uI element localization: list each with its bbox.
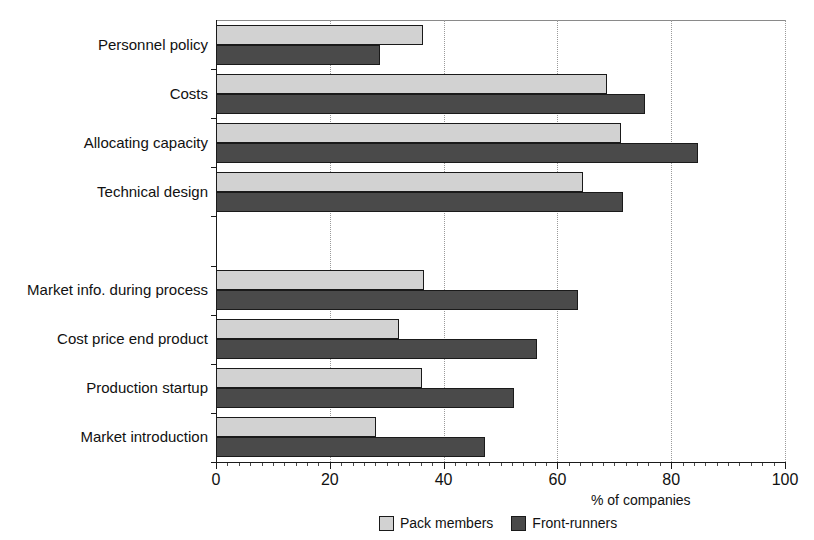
x-tick-label: 100	[772, 470, 799, 490]
bar-group	[216, 413, 785, 462]
x-minor-tick	[728, 463, 729, 466]
category-label: Cost price end product	[57, 329, 208, 349]
legend-item: Pack members	[379, 515, 493, 532]
x-minor-tick	[466, 463, 467, 466]
category-tick	[211, 462, 216, 463]
bar-group	[216, 118, 785, 167]
x-minor-tick	[375, 463, 376, 466]
category-tick	[211, 413, 216, 414]
bar-front-runners	[216, 192, 623, 212]
x-minor-tick	[717, 463, 718, 466]
x-minor-tick	[341, 463, 342, 466]
x-minor-tick	[603, 463, 604, 466]
x-major-tick	[216, 463, 217, 469]
category-tick	[211, 167, 216, 168]
bar-front-runners-track	[216, 437, 785, 457]
x-minor-tick	[318, 463, 319, 466]
x-minor-tick	[239, 463, 240, 466]
category-label: Technical design	[97, 182, 208, 202]
x-minor-tick	[489, 463, 490, 466]
x-minor-tick	[694, 463, 695, 466]
x-minor-tick	[432, 463, 433, 466]
legend-label: Front-runners	[532, 515, 617, 532]
x-tick-label: 80	[662, 470, 680, 490]
bar-front-runners	[216, 94, 645, 114]
category-tick	[211, 266, 216, 267]
category-label: Market info. during process	[27, 280, 208, 300]
bar-front-runners	[216, 143, 698, 163]
x-minor-tick	[227, 463, 228, 466]
caption-remnant	[8, 534, 428, 540]
bar-front-runners-track	[216, 192, 785, 212]
x-tick-label: 20	[321, 470, 339, 490]
x-major-tick	[671, 463, 672, 469]
bar-pack-members	[216, 368, 422, 388]
x-minor-tick	[250, 463, 251, 466]
x-minor-tick	[626, 463, 627, 466]
bar-pack-members	[216, 417, 376, 437]
category-tick	[211, 216, 216, 217]
category-label: Personnel policy	[98, 35, 208, 55]
bar-group	[216, 266, 785, 315]
x-minor-tick	[705, 463, 706, 466]
x-minor-tick	[455, 463, 456, 466]
x-minor-tick	[648, 463, 649, 466]
category-tick	[211, 364, 216, 365]
bar-front-runners-track	[216, 94, 785, 114]
bar-pack-members-track	[216, 417, 785, 437]
x-minor-tick	[569, 463, 570, 466]
bar-pack-members	[216, 25, 423, 45]
bar-front-runners-track	[216, 45, 785, 65]
x-minor-tick	[580, 463, 581, 466]
x-minor-tick	[535, 463, 536, 466]
x-minor-tick	[409, 463, 410, 466]
bar-front-runners	[216, 290, 578, 310]
bar-group	[216, 216, 785, 265]
x-axis-ticks	[216, 463, 786, 468]
bar-front-runners	[216, 388, 514, 408]
x-minor-tick	[683, 463, 684, 466]
x-minor-tick	[774, 463, 775, 466]
x-minor-tick	[512, 463, 513, 466]
category-label: Allocating capacity	[84, 133, 208, 153]
value-axis-line	[216, 20, 217, 463]
category-label: Costs	[170, 84, 208, 104]
x-minor-tick	[421, 463, 422, 466]
x-major-tick	[330, 463, 331, 469]
x-minor-tick	[762, 463, 763, 466]
bar-front-runners-track	[216, 290, 785, 310]
legend-swatch-front-runners	[511, 516, 526, 531]
bar-pack-members-track	[216, 74, 785, 94]
x-tick-label: 60	[548, 470, 566, 490]
bar-group	[216, 315, 785, 364]
category-tick	[211, 315, 216, 316]
legend-item: Front-runners	[511, 515, 617, 532]
plot-area	[216, 20, 785, 462]
gridline-100	[785, 20, 786, 462]
category-label: Market introduction	[80, 427, 208, 447]
bar-front-runners-track	[216, 143, 785, 163]
x-minor-tick	[364, 463, 365, 466]
bar-front-runners	[216, 437, 485, 457]
bar-front-runners	[216, 45, 380, 65]
x-major-tick	[557, 463, 558, 469]
bar-group	[216, 20, 785, 69]
x-minor-tick	[739, 463, 740, 466]
legend-swatch-pack-members	[379, 516, 394, 531]
x-minor-tick	[398, 463, 399, 466]
bar-pack-members-track	[216, 319, 785, 339]
x-minor-tick	[523, 463, 524, 466]
x-minor-tick	[751, 463, 752, 466]
bar-pack-members	[216, 319, 399, 339]
x-minor-tick	[614, 463, 615, 466]
x-minor-tick	[478, 463, 479, 466]
bar-pack-members-track	[216, 25, 785, 45]
bar-pack-members-track	[216, 270, 785, 290]
bar-pack-members-track	[216, 221, 785, 241]
bar-group	[216, 364, 785, 413]
x-minor-tick	[501, 463, 502, 466]
bar-group	[216, 69, 785, 118]
category-label: Production startup	[86, 378, 208, 398]
x-major-tick	[785, 463, 786, 469]
category-tick	[211, 118, 216, 119]
